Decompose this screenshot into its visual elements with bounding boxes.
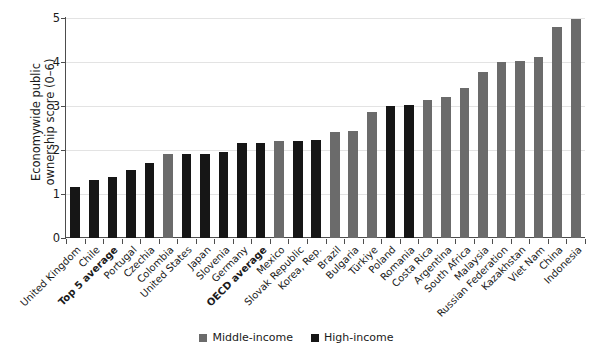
- legend-item[interactable]: Middle-income: [199, 331, 293, 344]
- bar[interactable]: [515, 61, 525, 238]
- bar-slot[interactable]: [571, 18, 581, 238]
- chart-legend: Middle-incomeHigh-income: [0, 331, 593, 344]
- bar[interactable]: [386, 106, 396, 238]
- bar-slot[interactable]: [89, 18, 99, 238]
- bar[interactable]: [423, 100, 433, 238]
- bar[interactable]: [200, 154, 210, 238]
- bar-slot[interactable]: [460, 18, 470, 238]
- bar[interactable]: [571, 19, 581, 238]
- bar[interactable]: [552, 27, 562, 238]
- bar-slot[interactable]: [126, 18, 136, 238]
- bar-slot[interactable]: [423, 18, 433, 238]
- bar-slot[interactable]: [163, 18, 173, 238]
- bar[interactable]: [70, 187, 80, 238]
- bar-slot[interactable]: [145, 18, 155, 238]
- bar[interactable]: [126, 170, 136, 238]
- bar[interactable]: [460, 88, 470, 238]
- bar[interactable]: [330, 132, 340, 238]
- y-tick-label: 2: [34, 143, 60, 157]
- bar-slot[interactable]: [441, 18, 451, 238]
- bar[interactable]: [497, 62, 507, 238]
- bar-chart: Economywide public ownership score (0–6)…: [0, 0, 593, 352]
- legend-label: Middle-income: [212, 331, 293, 344]
- y-tick-mark: [61, 106, 65, 107]
- bar-slot[interactable]: [108, 18, 118, 238]
- bar-slot[interactable]: [348, 18, 358, 238]
- bar[interactable]: [182, 154, 192, 238]
- bar[interactable]: [237, 143, 247, 238]
- bar-slot[interactable]: [386, 18, 396, 238]
- bar-slot[interactable]: [274, 18, 284, 238]
- legend-swatch-icon: [199, 334, 207, 342]
- bar[interactable]: [348, 131, 358, 238]
- legend-label: High-income: [324, 331, 394, 344]
- bar[interactable]: [274, 141, 284, 238]
- bar[interactable]: [256, 143, 266, 238]
- legend-swatch-icon: [311, 334, 319, 342]
- y-tick-mark: [61, 18, 65, 19]
- bar-slot[interactable]: [182, 18, 192, 238]
- bar[interactable]: [145, 163, 155, 238]
- bar[interactable]: [311, 140, 321, 238]
- bar-slot[interactable]: [200, 18, 210, 238]
- y-tick-label: 0: [34, 231, 60, 245]
- bar[interactable]: [534, 57, 544, 238]
- y-tick-label: 4: [34, 55, 60, 69]
- y-tick-label: 5: [34, 11, 60, 25]
- bar[interactable]: [163, 154, 173, 238]
- bar-slot[interactable]: [311, 18, 321, 238]
- bar[interactable]: [441, 97, 451, 238]
- bar[interactable]: [478, 72, 488, 238]
- bar-slot[interactable]: [256, 18, 266, 238]
- y-tick-mark: [61, 150, 65, 151]
- x-tick-mark: [585, 239, 586, 244]
- plot-area: [66, 18, 585, 238]
- bar-slot[interactable]: [552, 18, 562, 238]
- y-tick-mark: [61, 238, 65, 239]
- bar[interactable]: [293, 141, 303, 238]
- bar[interactable]: [108, 177, 118, 238]
- bar[interactable]: [89, 180, 99, 238]
- bar-slot[interactable]: [293, 18, 303, 238]
- y-tick-mark: [61, 194, 65, 195]
- bar[interactable]: [404, 105, 414, 238]
- bar-series: [66, 18, 585, 238]
- y-tick-label: 1: [34, 187, 60, 201]
- bar-slot[interactable]: [404, 18, 414, 238]
- bar-slot[interactable]: [497, 18, 507, 238]
- bar-slot[interactable]: [534, 18, 544, 238]
- bar-slot[interactable]: [237, 18, 247, 238]
- y-tick-label: 3: [34, 99, 60, 113]
- bar-slot[interactable]: [219, 18, 229, 238]
- bar-slot[interactable]: [515, 18, 525, 238]
- x-axis-labels: United KingdomChileTop 5 averagePortugal…: [66, 244, 585, 324]
- bar[interactable]: [219, 152, 229, 238]
- bar-slot[interactable]: [70, 18, 80, 238]
- y-axis-title: Economywide public ownership score (0–6): [29, 7, 57, 237]
- bar-slot[interactable]: [330, 18, 340, 238]
- bar-slot[interactable]: [478, 18, 488, 238]
- bar-slot[interactable]: [367, 18, 377, 238]
- y-tick-mark: [61, 62, 65, 63]
- bar[interactable]: [367, 112, 377, 238]
- legend-item[interactable]: High-income: [311, 331, 394, 344]
